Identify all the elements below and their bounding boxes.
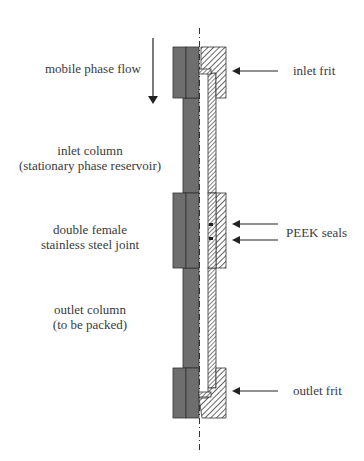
peek-seal-arrow-lower-icon: [232, 236, 278, 244]
label-inlet-column-line2: (stationary phase reservoir): [10, 158, 170, 173]
label-double-female-joint: double female stainless steel joint: [25, 222, 155, 252]
double-female-joint: [173, 193, 226, 268]
inlet-column-wall-hatched: [208, 73, 216, 193]
outlet-frit-shape: [199, 392, 211, 397]
outlet-column-wall-hatched: [208, 268, 216, 388]
label-joint-line1: double female: [25, 222, 155, 237]
inlet-frit-arrow-icon: [232, 67, 278, 75]
label-peek-seals: PEEK seals: [286, 225, 347, 240]
flow-arrow-icon: [148, 38, 158, 104]
label-inlet-column: inlet column (stationary phase reservoir…: [10, 143, 170, 173]
label-mobile-phase-flow: mobile phase flow: [38, 61, 148, 76]
label-inlet-frit: inlet frit: [293, 63, 335, 78]
peek-seal-arrow-upper-icon: [232, 220, 278, 228]
label-outlet-column-line2: (to be packed): [30, 317, 150, 332]
label-inlet-column-line1: inlet column: [10, 143, 170, 158]
label-joint-line2: stainless steel joint: [25, 237, 155, 252]
peek-seal-upper: [209, 223, 213, 226]
inlet-frit-shape: [199, 69, 211, 74]
label-outlet-column: outlet column (to be packed): [30, 302, 150, 332]
label-outlet-column-line1: outlet column: [30, 302, 150, 317]
inlet-column-wall: [183, 98, 199, 193]
outlet-frit-arrow-icon: [232, 387, 278, 395]
outlet-column-wall: [183, 268, 199, 368]
label-outlet-frit: outlet frit: [293, 383, 342, 398]
peek-seal-lower: [209, 237, 213, 240]
